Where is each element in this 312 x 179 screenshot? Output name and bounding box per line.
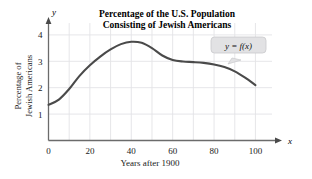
y-tick-label: 1	[38, 110, 43, 120]
x-tick-label: 40	[127, 146, 137, 156]
y-axis-label: Percentage of Jewish Americans	[13, 54, 34, 117]
chart-title-line-1: Percentage of the U.S. Population	[99, 9, 236, 19]
x-tick-label: 0	[46, 146, 51, 156]
y-axis-letter: y	[51, 7, 56, 17]
x-tick-label: 60	[168, 146, 178, 156]
y-axis-label-line-1: Percentage of	[13, 62, 23, 109]
x-tick-label: 80	[210, 146, 220, 156]
chart-canvas: Percentage of the U.S. Population Consis…	[0, 0, 312, 179]
y-tick-label: 2	[38, 83, 43, 93]
callout-label: y = f(x)	[224, 41, 252, 51]
y-axis-label-line-2: Jewish Americans	[24, 54, 34, 117]
x-axis-letter: x	[287, 136, 292, 146]
y-tick-label: 4	[38, 30, 43, 40]
chart-title-line-2: Consisting of Jewish Americans	[103, 20, 232, 30]
x-axis-label: Years after 1900	[120, 158, 180, 168]
chart-figure: Percentage of the U.S. Population Consis…	[0, 0, 312, 179]
x-tick-label: 20	[85, 146, 95, 156]
x-tick-label: 100	[249, 146, 263, 156]
y-tick-label: 3	[38, 57, 43, 67]
